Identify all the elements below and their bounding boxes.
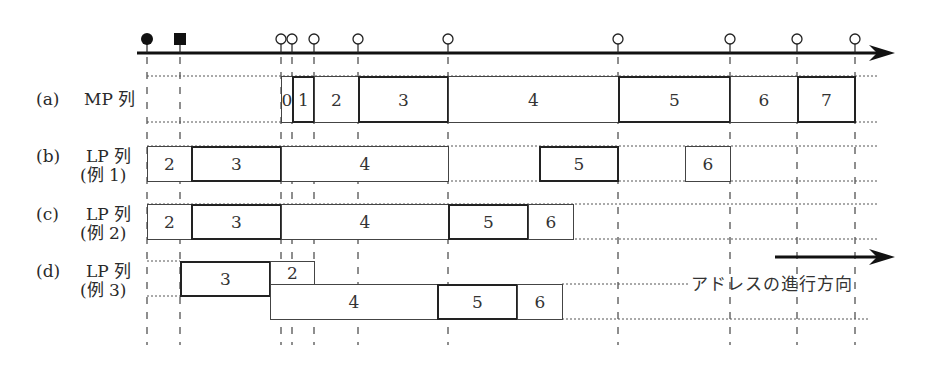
row-b-block-4: 4	[281, 146, 449, 182]
row-c-block-2: 2	[147, 204, 192, 240]
row-a-block-1: 1	[292, 76, 315, 123]
row-d-block-3: 3	[180, 261, 271, 297]
row-a-block-4: 4	[448, 76, 619, 123]
row-a-block-6: 6	[730, 76, 798, 123]
open-circle-marker-icon	[443, 34, 453, 44]
row-c-block-4: 4	[281, 204, 449, 240]
row-a-block-5: 5	[618, 76, 731, 123]
row-c-block-6: 6	[528, 204, 574, 240]
open-circle-marker-icon	[850, 34, 860, 44]
open-circle-marker-icon	[792, 34, 802, 44]
open-circle-marker-icon	[725, 34, 735, 44]
row-a-block-3: 3	[358, 76, 449, 123]
open-circle-marker-icon	[309, 34, 319, 44]
row-d-block-2: 2	[270, 261, 315, 285]
row-c-label: LP 列	[86, 204, 131, 224]
address-diagram: (a) MP 列 (b) LP 列 (例 1) (c) LP 列 (例 2) (…	[0, 0, 928, 365]
row-c-block-3: 3	[191, 204, 282, 240]
row-c-example: (例 2)	[80, 223, 126, 243]
row-d-block-5: 5	[437, 284, 518, 320]
open-circle-marker-icon	[276, 34, 286, 44]
row-b-example: (例 1)	[80, 165, 126, 185]
row-d-block-6: 6	[517, 284, 563, 320]
row-c-tag: (c)	[36, 204, 59, 224]
row-c-block-5: 5	[448, 204, 529, 240]
open-circle-marker-icon	[287, 34, 297, 44]
filled-circle-marker-icon	[141, 33, 153, 45]
filled-square-marker-icon	[174, 33, 186, 45]
row-d-example: (例 3)	[80, 280, 126, 300]
row-d-tag: (d)	[36, 261, 60, 281]
row-b-block-2: 2	[147, 146, 192, 182]
row-d-block-4: 4	[270, 284, 438, 320]
row-a-block-7: 7	[797, 76, 856, 123]
row-b-block-3: 3	[191, 146, 282, 182]
row-a-block-2: 2	[314, 76, 359, 123]
row-b-tag: (b)	[36, 146, 60, 166]
row-d-label: LP 列	[86, 261, 131, 281]
row-a-label: MP 列	[84, 89, 135, 109]
row-a-tag: (a)	[36, 89, 59, 109]
row-b-block-6: 6	[685, 146, 731, 182]
address-direction-label: アドレスの進行方向	[691, 270, 853, 295]
open-circle-marker-icon	[613, 34, 623, 44]
open-circle-marker-icon	[353, 34, 363, 44]
row-b-label: LP 列	[86, 146, 131, 166]
row-b-block-5: 5	[539, 146, 619, 182]
